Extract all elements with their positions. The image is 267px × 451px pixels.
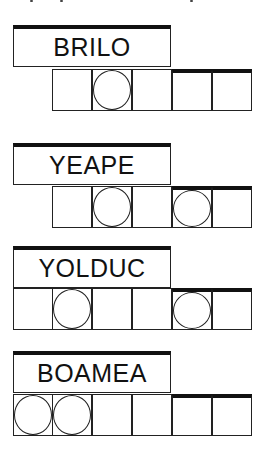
answer-cell-3[interactable] [92, 288, 132, 330]
answer-cell-3[interactable] [132, 69, 172, 111]
scrambled-word-box: BRILO [13, 25, 171, 67]
circle-marker-icon [173, 292, 211, 329]
answer-cell-2[interactable] [52, 394, 92, 436]
circle-marker-icon [53, 289, 91, 329]
answer-cell-4[interactable] [132, 394, 172, 436]
answer-cell-1[interactable] [52, 186, 92, 228]
answer-cell-4[interactable] [132, 288, 172, 330]
answer-cell-2[interactable] [52, 288, 92, 330]
answer-cell-1[interactable] [13, 288, 53, 330]
scrambled-word-box: YOLDUC [13, 246, 171, 288]
circle-marker-icon [14, 395, 52, 435]
circle-marker-icon [173, 190, 211, 227]
answer-cell-5[interactable] [172, 394, 212, 436]
answer-cell-5[interactable] [212, 186, 252, 228]
scrambled-word: YOLDUC [38, 254, 145, 283]
answer-cell-6[interactable] [212, 394, 252, 436]
scrambled-word: BRILO [53, 33, 131, 62]
scrambled-word-box: YEAPE [13, 143, 171, 185]
answer-cell-1[interactable] [52, 69, 92, 111]
circle-marker-icon [93, 70, 131, 110]
answer-cell-1[interactable] [13, 394, 53, 436]
scrambled-word-box: BOAMEA [13, 351, 171, 393]
cropped-top-text [0, 0, 267, 6]
answer-cell-3[interactable] [132, 186, 172, 228]
answer-cell-5[interactable] [172, 288, 212, 330]
answer-cell-5[interactable] [212, 69, 252, 111]
answer-cell-4[interactable] [172, 69, 212, 111]
scrambled-word: YEAPE [49, 151, 135, 180]
circle-marker-icon [93, 187, 131, 227]
answer-cell-6[interactable] [212, 288, 252, 330]
scrambled-word: BOAMEA [37, 359, 147, 388]
answer-cell-2[interactable] [92, 186, 132, 228]
answer-cell-2[interactable] [92, 69, 132, 111]
circle-marker-icon [53, 395, 91, 435]
answer-cell-3[interactable] [92, 394, 132, 436]
answer-cell-4[interactable] [172, 186, 212, 228]
